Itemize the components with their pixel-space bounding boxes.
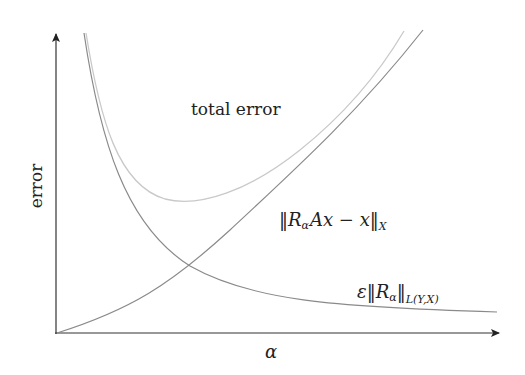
y-axis-label: error	[26, 163, 46, 209]
chart: error α total error ‖RαAx − x‖X ε‖Rα‖L(Y…	[0, 0, 525, 375]
x-axis-label: α	[265, 341, 277, 362]
approximation-error-label: ‖RαAx − x‖X	[279, 209, 388, 233]
data-error-label: ε‖Rα‖L(Y,X)	[357, 281, 439, 306]
total-error-label: total error	[191, 99, 281, 119]
